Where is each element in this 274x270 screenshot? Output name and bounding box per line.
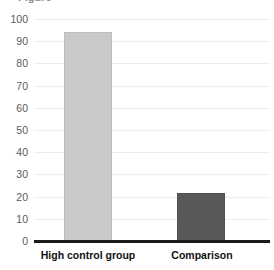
bar-comparison <box>177 193 225 241</box>
plot-area: 0102030405060708090100 High control grou… <box>0 0 274 270</box>
x-axis-label-high-control-group: High control group <box>18 249 158 262</box>
y-tick-label-30: 30 <box>0 169 28 179</box>
x-axis-label-comparison: Comparison <box>150 249 254 262</box>
bar-high-control-group <box>64 32 112 241</box>
y-tick-label-20: 20 <box>0 192 28 202</box>
y-tick-label-90: 90 <box>0 36 28 46</box>
y-tick-label-0: 0 <box>0 236 28 246</box>
y-tick-label-70: 70 <box>0 81 28 91</box>
y-tick-label-10: 10 <box>0 214 28 224</box>
y-tick-label-100: 100 <box>0 14 28 24</box>
y-tick-label-50: 50 <box>0 125 28 135</box>
bar-chart: Figure 0102030405060708090100 High contr… <box>0 0 274 270</box>
y-tick-label-40: 40 <box>0 147 28 157</box>
x-axis-baseline <box>34 240 270 243</box>
gridline-100 <box>34 19 270 20</box>
y-tick-label-60: 60 <box>0 103 28 113</box>
y-tick-label-80: 80 <box>0 58 28 68</box>
